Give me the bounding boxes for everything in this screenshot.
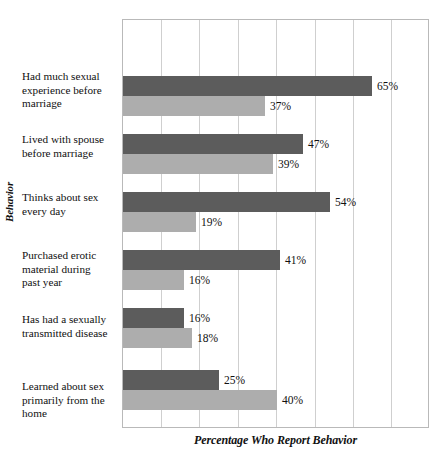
bar-women-3 [123, 270, 184, 290]
bar-value-women-1: 39% [278, 154, 299, 174]
bar-women-0 [123, 96, 265, 116]
category-label-2: Thinks about sexevery day [22, 191, 118, 218]
category-label-line: Lived with spouse [22, 133, 118, 147]
bar-value-men-4: 16% [189, 308, 210, 328]
bar-women-5 [123, 390, 277, 410]
x-axis-title: Percentage Who Report Behavior [122, 433, 429, 448]
bar-women-1 [123, 154, 273, 174]
category-label-line: primarily from the [22, 394, 118, 408]
bar-men-5 [123, 370, 219, 390]
bar-value-women-4: 18% [197, 328, 218, 348]
category-label-line: Thinks about sex [22, 191, 118, 205]
bar-men-1 [123, 134, 303, 154]
plot-area: Men Women 65%37%47%39%54%19%41%16%16%18%… [122, 19, 429, 428]
bar-value-men-0: 65% [377, 76, 398, 96]
bar-value-men-1: 47% [308, 134, 329, 154]
bar-men-4 [123, 308, 184, 328]
y-axis-title: Behavior [3, 172, 15, 232]
category-label-line: Had much sexual [22, 70, 118, 84]
bar-value-women-0: 37% [270, 96, 291, 116]
category-label-line: experience before [22, 84, 118, 98]
bar-men-3 [123, 250, 280, 270]
category-label-line: transmitted disease [22, 327, 118, 341]
category-label-5: Learned about sexprimarily from thehome [22, 380, 118, 421]
bar-chart: Behavior Men Women 65%37%47%39%54%19%41%… [0, 0, 443, 455]
category-label-4: Has had a sexuallytransmitted disease [22, 313, 118, 340]
category-label-line: Has had a sexually [22, 313, 118, 327]
category-label-3: Purchased eroticmaterial duringpast year [22, 249, 118, 290]
category-label-line: marriage [22, 97, 118, 111]
bar-value-men-2: 54% [335, 192, 356, 212]
category-label-line: Purchased erotic [22, 249, 118, 263]
category-label-line: Learned about sex [22, 380, 118, 394]
category-label-line: past year [22, 276, 118, 290]
bar-value-women-3: 16% [189, 270, 210, 290]
bar-value-women-5: 40% [282, 390, 303, 410]
category-label-1: Lived with spousebefore marriage [22, 133, 118, 160]
category-label-line: before marriage [22, 147, 118, 161]
category-label-line: material during [22, 263, 118, 277]
bar-value-women-2: 19% [201, 212, 222, 232]
bar-women-2 [123, 212, 196, 232]
bar-men-0 [123, 76, 372, 96]
bar-women-4 [123, 328, 192, 348]
bar-value-men-5: 25% [224, 370, 245, 390]
category-label-0: Had much sexualexperience beforemarriage [22, 70, 118, 111]
category-label-line: every day [22, 205, 118, 219]
category-label-line: home [22, 407, 118, 421]
bar-men-2 [123, 192, 330, 212]
bar-value-men-3: 41% [285, 250, 306, 270]
